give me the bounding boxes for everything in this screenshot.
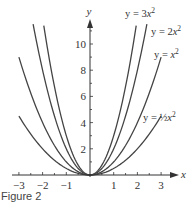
x-axis-label: x [180, 168, 186, 180]
curve-label: y = 2x2 [151, 24, 181, 37]
y-tick-label: 4 [81, 117, 87, 129]
y-tick-label: 2 [81, 143, 87, 155]
labels: −3−2−1123246810xyy = 3x2y = 2x2y = x2y =… [13, 5, 186, 191]
x-tick-label: 3 [158, 179, 164, 191]
curve-label: y = 3x2 [125, 6, 155, 19]
y-axis-label: y [86, 5, 92, 17]
parabola-chart: −3−2−1123246810xyy = 3x2y = 2x2y = x2y =… [0, 0, 193, 212]
x-axis-arrow-icon [170, 172, 179, 178]
x-tick-label: 1 [111, 179, 117, 191]
y-tick-label: 10 [75, 38, 87, 50]
y-tick-label: 8 [81, 64, 87, 76]
figure-caption: Figure 2 [1, 190, 41, 202]
x-tick-label: 2 [135, 179, 141, 191]
y-axis-arrow-icon [87, 19, 93, 28]
curve-label: y = x2 [154, 47, 179, 60]
y-tick-label: 6 [81, 90, 87, 102]
x-tick-label: −1 [60, 179, 72, 191]
curve-label: y = ½x2 [143, 110, 176, 123]
